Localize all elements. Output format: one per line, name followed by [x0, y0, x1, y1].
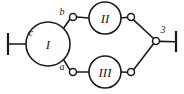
junction-node-top-right[interactable] [128, 14, 135, 21]
edge-label-c: c [29, 27, 34, 38]
edge-node1-to-a [64, 60, 71, 71]
junction-node-b[interactable] [70, 14, 77, 21]
edge-br-to-junction [134, 44, 154, 70]
node-1-label: I [45, 37, 51, 52]
graph-diagram-canvas: I II III c b a 3 [0, 0, 184, 94]
junction-node-bottom-right[interactable] [128, 69, 135, 76]
edge-node1-to-b [64, 19, 71, 29]
junction-node-a[interactable] [70, 69, 77, 76]
junction-node-right[interactable] [153, 38, 160, 45]
edge-label-3: 3 [160, 24, 166, 35]
edge-label-b: b [60, 6, 65, 17]
node-2-label: II [100, 11, 110, 26]
node-circle-3[interactable]: III [89, 56, 121, 88]
edge-node2-to-tr [121, 17, 128, 18]
edge-b-to-node2 [77, 17, 90, 18]
graph-diagram-svg: I II III c b a 3 [0, 0, 184, 94]
node-3-label: III [98, 65, 113, 80]
node-circle-2[interactable]: II [89, 2, 121, 34]
edge-label-a: a [60, 61, 65, 72]
edge-tr-to-junction [134, 20, 154, 39]
